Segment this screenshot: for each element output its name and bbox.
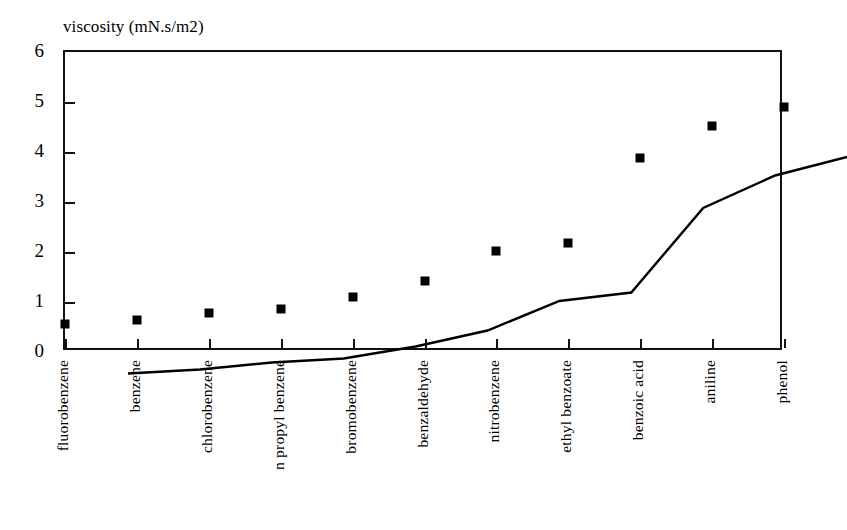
x-tick-label: nitrobenzene xyxy=(486,360,502,442)
data-point-marker xyxy=(780,103,789,112)
y-tick-label: 6 xyxy=(35,41,45,60)
y-tick-mark xyxy=(65,252,75,254)
data-point-marker xyxy=(276,304,285,313)
x-tick-label: benzene xyxy=(127,360,143,412)
data-point-marker xyxy=(204,308,213,317)
y-tick-mark xyxy=(65,202,75,204)
plot-area xyxy=(63,50,782,350)
data-point-marker xyxy=(564,238,573,247)
x-tick-mark xyxy=(65,339,67,348)
x-tick-label: aniline xyxy=(702,360,718,404)
data-point-marker xyxy=(420,276,429,285)
y-tick-label: 2 xyxy=(35,241,45,260)
x-axis: fluorobenzenebenzenechlorobenzenen propy… xyxy=(63,352,782,530)
x-tick-label: ethyl benzoate xyxy=(558,360,574,453)
x-tick-mark xyxy=(209,339,211,348)
y-tick-mark xyxy=(65,102,75,104)
chart-title: viscosity (mN.s/m2) xyxy=(63,17,204,37)
data-point-marker xyxy=(132,315,141,324)
x-tick-label: fluorobenzene xyxy=(55,360,71,451)
x-tick-mark xyxy=(712,339,714,348)
x-tick-label: n propyl benzene xyxy=(271,360,287,470)
x-tick-label: chlorobenzene xyxy=(199,360,215,453)
y-tick-label: 1 xyxy=(35,291,45,310)
x-tick-label: benzoic acid xyxy=(630,360,646,440)
x-tick-label: bromobenzene xyxy=(343,360,359,454)
data-point-marker xyxy=(61,319,70,328)
x-tick-mark xyxy=(425,339,427,348)
x-tick-mark xyxy=(784,339,786,348)
x-tick-mark xyxy=(496,339,498,348)
y-tick-label: 5 xyxy=(35,91,45,110)
y-tick-mark xyxy=(65,302,75,304)
data-point-marker xyxy=(708,121,717,130)
y-tick-label: 3 xyxy=(35,191,45,210)
x-tick-mark xyxy=(640,339,642,348)
y-tick-label: 4 xyxy=(35,141,45,160)
data-point-marker xyxy=(348,292,357,301)
x-tick-mark xyxy=(568,339,570,348)
x-tick-mark xyxy=(281,339,283,348)
data-point-marker xyxy=(636,154,645,163)
x-tick-mark xyxy=(353,339,355,348)
x-tick-label: benzaldehyde xyxy=(415,360,431,448)
y-tick-mark xyxy=(65,152,75,154)
series-polyline xyxy=(128,157,847,374)
y-tick-label: 0 xyxy=(35,341,45,360)
x-tick-mark xyxy=(137,339,139,348)
x-tick-label: phenol xyxy=(774,360,790,403)
data-point-marker xyxy=(492,247,501,256)
